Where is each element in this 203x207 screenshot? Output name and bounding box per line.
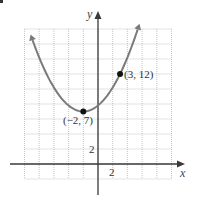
axes: [10, 11, 185, 195]
point-3-12: [117, 71, 123, 77]
point-label: (3, 12): [124, 68, 154, 81]
vertex-label: (−2, 7): [63, 114, 93, 127]
parabola-chart: y x 2 2 (−2, 7) (3, 12): [0, 0, 203, 207]
y-axis-label: y: [86, 7, 93, 21]
x-axis-label: x: [179, 166, 186, 180]
parabola-curve: [33, 29, 138, 111]
y-axis-arrow-icon: [95, 11, 102, 19]
x-tick-label: 2: [109, 166, 115, 178]
y-tick-label: 2: [89, 143, 95, 155]
